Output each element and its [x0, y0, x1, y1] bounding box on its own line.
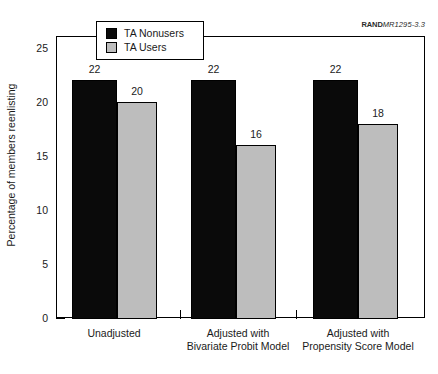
x-tick-separator-2	[296, 310, 297, 319]
bar-unadjusted-ta-nonusers	[72, 80, 117, 319]
bar-value-label: 16	[236, 128, 276, 140]
bar-bivariate-probit-ta-users	[236, 145, 276, 319]
y-tick-label: 0	[18, 312, 48, 324]
x-tick-separator-1	[180, 310, 181, 319]
x-group-label-unadjusted: Unadjusted	[54, 327, 174, 340]
bar-chart-figure: RANDMR1295-3.3 Percentage of members ree…	[0, 0, 438, 374]
y-tick-label: 15	[18, 150, 48, 162]
legend-label: TA Users	[124, 41, 166, 53]
y-tick-label: 5	[18, 258, 48, 270]
y-tick-label: 25	[18, 42, 48, 54]
bar-propensity-score-ta-nonusers	[313, 80, 358, 319]
bar-propensity-score-ta-users	[358, 124, 398, 319]
bar-value-label: 22	[72, 63, 117, 75]
legend-swatch-icon-ta-users	[106, 42, 117, 53]
x-group-label-line2: Bivariate Probit Model	[173, 340, 303, 353]
x-group-label-line1: Adjusted with	[287, 327, 429, 340]
bar-value-label: 20	[117, 85, 157, 97]
y-tick-label: 20	[18, 96, 48, 108]
x-group-label-line1: Unadjusted	[54, 327, 174, 340]
y-tick-line	[56, 318, 65, 319]
rand-source-tag: RANDMR1295-3.3	[361, 20, 425, 29]
x-group-label-line1: Adjusted with	[173, 327, 303, 340]
y-tick-label: 10	[18, 204, 48, 216]
bar-value-label: 18	[358, 107, 398, 119]
chart-legend: TA Nonusers TA Users	[96, 21, 204, 60]
y-axis-title: Percentage of members reenlisting	[5, 5, 17, 325]
x-group-label-line2: Propensity Score Model	[287, 340, 429, 353]
x-group-label-propensity-score: Adjusted with Propensity Score Model	[287, 327, 429, 353]
rand-source-tag-number: MR1295-3.3	[383, 20, 425, 29]
legend-swatch-icon-ta-nonusers	[106, 28, 117, 39]
bar-value-label: 22	[191, 63, 236, 75]
bar-unadjusted-ta-users	[117, 102, 157, 319]
bar-value-label: 22	[313, 63, 358, 75]
legend-item-ta-nonusers: TA Nonusers	[97, 26, 203, 40]
legend-label: TA Nonusers	[124, 27, 184, 39]
rand-source-tag-brand: RAND	[361, 20, 382, 29]
bar-bivariate-probit-ta-nonusers	[191, 80, 236, 319]
x-group-label-bivariate-probit: Adjusted with Bivariate Probit Model	[173, 327, 303, 353]
legend-item-ta-users: TA Users	[97, 40, 203, 54]
